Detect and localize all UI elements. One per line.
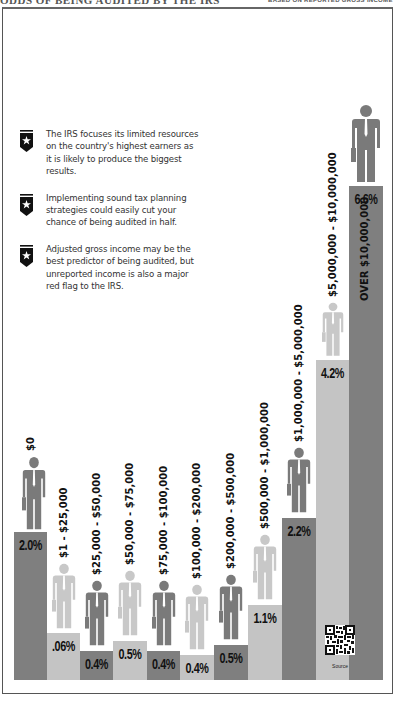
bar-value-label: 1.1%: [253, 609, 277, 626]
qr-code-icon[interactable]: [325, 620, 355, 660]
bar-value-label: 2.2%: [287, 522, 311, 539]
businessman-icon: [22, 456, 46, 531]
note-item: Adjusted gross income may be the best pr…: [20, 243, 200, 293]
income-bracket-label: $75,000 - $100,000: [158, 466, 169, 575]
page-subtitle: BASED ON REPORTED GROSS INCOME: [268, 0, 393, 3]
bar: .06%: [47, 633, 80, 680]
businessman-icon: [52, 563, 76, 630]
income-bracket-label: $25,000 - $50,000: [91, 473, 102, 575]
income-bracket-label: $500,000 - $1,000,000: [259, 402, 270, 529]
income-bracket-label: $50,000 - $75,000: [124, 463, 135, 565]
bar: 0.4%: [147, 651, 180, 680]
businessman-icon: [351, 104, 381, 184]
income-bracket-label: $5,000,000 - $10,000,000: [327, 152, 338, 297]
bar-value-label: 4.2%: [321, 364, 345, 381]
bar: 0.5%: [113, 641, 147, 680]
bar-value-label: 0.4%: [185, 659, 209, 676]
bar: 2.2%: [282, 518, 316, 680]
note-text: Adjusted gross income may be the best pr…: [46, 243, 200, 293]
income-bracket-label: OVER $10,000,000: [359, 197, 370, 301]
bar: 1.1%: [248, 605, 282, 680]
businessman-icon: [253, 534, 277, 601]
income-bracket-label: $100,000 - $200,000: [191, 463, 202, 579]
businessman-icon: [287, 447, 311, 514]
bar-value-label: .06%: [52, 637, 76, 654]
bar-value-label: 0.5%: [219, 649, 243, 666]
star-badge-icon: [20, 130, 33, 152]
income-bracket-label: $1 - $25,000: [58, 487, 69, 558]
businessman-icon: [219, 574, 243, 641]
income-bracket-label: $1,000,000 - $5,000,000: [293, 304, 304, 442]
bar-value-label: 0.4%: [152, 655, 176, 672]
note-item: Implementing sound tax planning strategi…: [20, 192, 200, 229]
star-badge-icon: [20, 245, 33, 267]
businessman-icon: [152, 580, 176, 647]
bar: 0.5%: [214, 645, 248, 680]
note-item: The IRS focuses its limited resources on…: [20, 128, 200, 178]
note-text: Implementing sound tax planning strategi…: [46, 192, 200, 229]
businessman-icon: [118, 570, 142, 637]
businessman-icon: [322, 302, 344, 357]
bar: 2.0%: [14, 532, 47, 680]
note-text: The IRS focuses its limited resources on…: [46, 128, 200, 178]
source-link[interactable]: Source: [325, 663, 355, 669]
bar-value-label: 2.0%: [19, 536, 43, 553]
header: ODDS OF BEING AUDITED BY THE IRS BASED O…: [0, 0, 397, 4]
bar: 0.4%: [180, 655, 214, 680]
businessman-icon: [185, 584, 209, 651]
star-badge-icon: [20, 194, 33, 216]
income-bracket-label: $200,000 - $500,000: [225, 453, 236, 569]
notes-list: The IRS focuses its limited resources on…: [20, 128, 200, 306]
page-title: ODDS OF BEING AUDITED BY THE IRS: [0, 0, 220, 4]
businessman-icon: [85, 580, 109, 647]
bar: 0.4%: [80, 651, 113, 680]
bar-value-label: 0.5%: [118, 645, 142, 662]
bar-value-label: 0.4%: [85, 655, 109, 672]
income-bracket-label: $0: [25, 437, 36, 451]
